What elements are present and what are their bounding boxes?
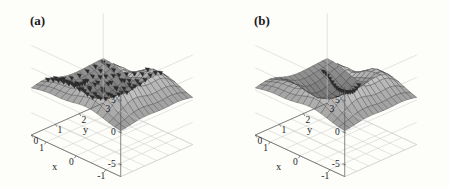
z-tick-label: 5 (111, 95, 116, 105)
y-tick-label: 1 (282, 125, 287, 135)
x-tick-label: 0 (69, 157, 74, 167)
y-axis-title: y (83, 124, 89, 135)
x-tick-label: -1 (97, 171, 105, 181)
x-tick-label: 1 (39, 143, 44, 153)
panel-label: (b) (254, 13, 270, 28)
y-tick-label: 1 (58, 125, 63, 135)
panel-label: (a) (30, 13, 45, 28)
x-tick-label: 0 (293, 157, 298, 167)
y-tick-label: 0 (34, 136, 39, 146)
x-tick-label: -1 (321, 171, 329, 181)
figure-root: 50-510-10123xy(a) 50-510-10123xy(b) (0, 0, 449, 188)
y-axis-title: y (307, 124, 313, 135)
z-tick-label: 0 (111, 127, 116, 137)
z-tick-label: -5 (108, 159, 116, 169)
z-tick-label: 0 (335, 127, 340, 137)
x-axis-title: x (276, 161, 282, 172)
y-tick-label: 3 (330, 104, 335, 114)
y-tick-label: 3 (106, 104, 111, 114)
x-tick-label: 1 (263, 143, 268, 153)
z-tick-label: -5 (332, 159, 340, 169)
z-tick-label: 5 (335, 95, 340, 105)
y-tick-label: 0 (258, 136, 263, 146)
x-axis-title: x (52, 161, 58, 172)
